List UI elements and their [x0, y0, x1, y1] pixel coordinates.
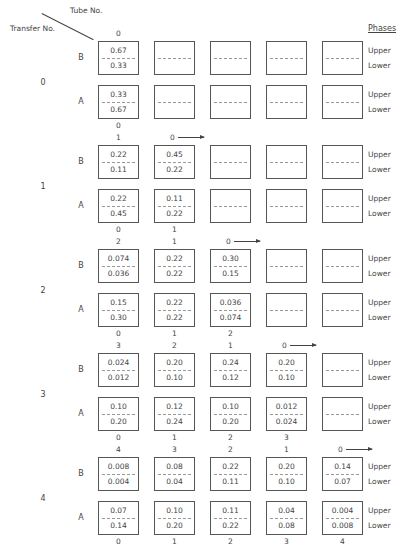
tube-number-bottom: 0 [98, 537, 139, 546]
tube-number-top: 0 [98, 29, 139, 38]
tube-box-b: 0.080.04 [154, 457, 195, 491]
transfer-number: 3 [33, 390, 53, 399]
upper-phase-fraction: 0.22 [99, 194, 138, 204]
tube-box-a [322, 85, 363, 119]
upper-phase-fraction: 0.20 [267, 462, 306, 472]
phase-boundary-dashed-line [158, 474, 191, 475]
phase-boundary-dashed-line [326, 58, 359, 59]
upper-phase-fraction: 0.10 [155, 506, 194, 516]
tube-number-bottom: 1 [154, 537, 195, 546]
tube-box-b: 0.220.11 [98, 145, 139, 179]
upper-phase-fraction: 0.004 [323, 506, 362, 516]
phase-boundary-dashed-line [270, 474, 303, 475]
lower-phase-fraction: 0.11 [99, 165, 138, 175]
phase-boundary-dashed-line [102, 474, 135, 475]
phase-letter-a: A [74, 97, 88, 106]
transfer-number: 0 [33, 78, 53, 87]
phase-boundary-dashed-line [158, 266, 191, 267]
upper-phase-label: Upper [368, 358, 391, 367]
lower-phase-label: Lower [368, 521, 390, 530]
phase-boundary-dashed-line [102, 206, 135, 207]
tube-box-b: 0.200.10 [266, 457, 307, 491]
phase-boundary-dashed-line [270, 162, 303, 163]
lower-phase-fraction: 0.004 [99, 477, 138, 487]
phase-boundary-dashed-line [214, 474, 247, 475]
tube-number-bottom: 1 [154, 225, 195, 234]
phase-boundary-dashed-line [158, 162, 191, 163]
upper-phase-label: Upper [368, 298, 391, 307]
tube-number-bottom: 0 [98, 225, 139, 234]
lower-phase-fraction: 0.20 [211, 417, 250, 427]
tube-box-a [210, 189, 251, 223]
phase-letter-b: B [74, 469, 88, 478]
phase-boundary-dashed-line [326, 370, 359, 371]
tube-box-a [154, 85, 195, 119]
tube-number-bottom: 0 [98, 329, 139, 338]
upper-phase-label: Upper [368, 46, 391, 55]
phase-boundary-dashed-line [270, 266, 303, 267]
upper-phase-fraction: 0.30 [211, 254, 250, 264]
phase-boundary-dashed-line [158, 370, 191, 371]
upper-phase-fraction: 0.08 [155, 462, 194, 472]
tube-box-a: 0.110.22 [154, 189, 195, 223]
tube-box-b: 0.240.12 [210, 353, 251, 387]
lower-phase-label: Lower [368, 373, 390, 382]
phase-boundary-dashed-line [102, 370, 135, 371]
phase-letter-b: B [74, 261, 88, 270]
lower-phase-fraction: 0.22 [155, 313, 194, 323]
phase-boundary-dashed-line [102, 58, 135, 59]
upper-phase-label: Upper [368, 506, 391, 515]
upper-phase-fraction: 0.45 [155, 150, 194, 160]
lower-phase-fraction: 0.22 [155, 209, 194, 219]
lower-phase-fraction: 0.22 [155, 269, 194, 279]
tube-box-a [322, 189, 363, 223]
upper-phase-fraction: 0.11 [155, 194, 194, 204]
upper-phase-fraction: 0.12 [155, 402, 194, 412]
tube-number-top: 3 [154, 445, 195, 454]
phase-boundary-dashed-line [158, 518, 191, 519]
upper-phase-fraction: 0.22 [211, 462, 250, 472]
tube-box-b [154, 41, 195, 75]
tube-box-a: 0.150.30 [98, 293, 139, 327]
tube-box-b [322, 249, 363, 283]
lower-phase-fraction: 0.12 [211, 373, 250, 383]
tube-box-a: 0.0040.008 [322, 501, 363, 535]
tube-box-a: 0.070.14 [98, 501, 139, 535]
phase-letter-b: B [74, 157, 88, 166]
phase-boundary-dashed-line [158, 310, 191, 311]
upper-phase-fraction: 0.04 [267, 506, 306, 516]
upper-phase-fraction: 0.074 [99, 254, 138, 264]
phase-boundary-dashed-line [214, 518, 247, 519]
phase-boundary-dashed-line [158, 206, 191, 207]
phase-boundary-dashed-line [270, 102, 303, 103]
phase-boundary-dashed-line [326, 206, 359, 207]
phase-boundary-dashed-line [214, 370, 247, 371]
tube-box-b: 0.0080.004 [98, 457, 139, 491]
tube-box-b: 0.140.07 [322, 457, 363, 491]
lower-phase-fraction: 0.14 [99, 521, 138, 531]
phase-boundary-dashed-line [102, 266, 135, 267]
tube-number-top: 1 [210, 341, 251, 350]
lower-phase-fraction: 0.33 [99, 61, 138, 71]
transfer-direction-arrow: 0 [226, 237, 260, 246]
phase-boundary-dashed-line [214, 206, 247, 207]
phase-boundary-dashed-line [270, 414, 303, 415]
upper-phase-fraction: 0.20 [267, 358, 306, 368]
lower-phase-fraction: 0.20 [99, 417, 138, 427]
tube-number-top: 1 [98, 133, 139, 142]
tube-number-bottom: 2 [210, 329, 251, 338]
lower-phase-label: Lower [368, 313, 390, 322]
tube-box-b: 0.670.33 [98, 41, 139, 75]
tube-box-b [322, 353, 363, 387]
lower-phase-fraction: 0.012 [99, 373, 138, 383]
upper-phase-label: Upper [368, 90, 391, 99]
upper-phase-label: Upper [368, 194, 391, 203]
tube-box-a: 0.220.22 [154, 293, 195, 327]
phase-boundary-dashed-line [214, 414, 247, 415]
tube-box-a [210, 85, 251, 119]
tube-box-a: 0.120.24 [154, 397, 195, 431]
phase-boundary-dashed-line [326, 266, 359, 267]
tube-number-top: 3 [98, 341, 139, 350]
tube-box-b [322, 41, 363, 75]
tube-box-b: 0.0740.036 [98, 249, 139, 283]
